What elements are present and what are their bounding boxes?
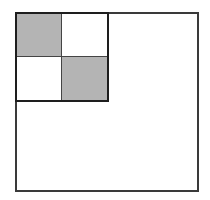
grid-cell-bottom-left: [17, 57, 62, 100]
grid-cell-bottom-right: [62, 57, 107, 100]
checkerboard-grid: [15, 12, 109, 102]
grid-cell-top-left: [17, 14, 62, 57]
grid-cell-top-right: [62, 14, 107, 57]
